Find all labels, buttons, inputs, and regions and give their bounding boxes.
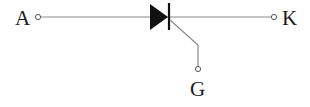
- gate-terminal: [195, 66, 200, 71]
- cathode-terminal: [271, 14, 276, 19]
- gate-wire: [170, 20, 198, 66]
- diode-triangle-icon: [150, 4, 168, 30]
- cathode-label: K: [282, 6, 297, 30]
- gate-label: G: [190, 77, 205, 101]
- anode-terminal: [35, 14, 40, 19]
- anode-label: A: [15, 6, 31, 30]
- thyristor-diagram: A K G: [0, 0, 310, 107]
